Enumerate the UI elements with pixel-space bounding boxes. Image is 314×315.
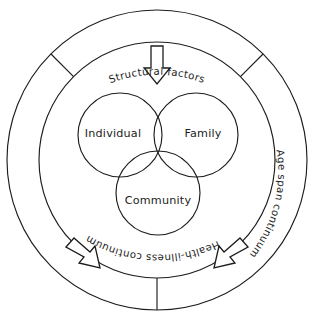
- venn-label-family: Family: [184, 127, 221, 140]
- venn-label-community: Community: [125, 194, 192, 207]
- ring-spoke-upper-right: [240, 54, 263, 77]
- bottom-right-arrow-icon: [214, 238, 248, 268]
- venn-circle-community: [116, 151, 200, 235]
- venn-label-individual: Individual: [85, 127, 142, 140]
- ecological-model-diagram: Individual Family Community Structural f…: [0, 0, 314, 315]
- ring-label-health-illness-continuum: Health-illness continuum: [84, 233, 222, 263]
- ring-spoke-upper-left: [51, 54, 74, 77]
- top-arrow-icon: [144, 46, 170, 84]
- diagram-canvas: Individual Family Community Structural f…: [0, 0, 314, 315]
- ring-label-health-illness-continuum-text: Health-illness continuum: [84, 233, 222, 263]
